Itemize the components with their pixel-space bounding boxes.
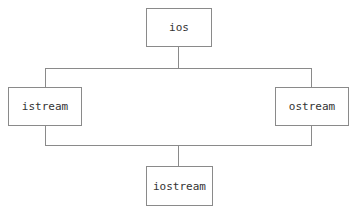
- node-istream-label: istream: [22, 100, 68, 113]
- node-iostream: iostream: [146, 166, 213, 206]
- connector-to-istream: [45, 68, 46, 88]
- connector-to-iostream: [178, 145, 179, 166]
- connector-istream-down: [45, 125, 46, 146]
- connector-top-bus: [45, 68, 312, 69]
- node-ostream: ostream: [275, 87, 349, 126]
- class-hierarchy-diagram: ios istream ostream iostream: [0, 0, 358, 219]
- connector-ostream-down: [311, 125, 312, 146]
- node-ios-label: ios: [169, 21, 189, 34]
- node-ostream-label: ostream: [289, 100, 335, 113]
- connector-ios-down: [178, 46, 179, 69]
- connector-to-ostream: [311, 68, 312, 88]
- node-ios: ios: [146, 8, 212, 47]
- node-iostream-label: iostream: [153, 180, 206, 193]
- node-istream: istream: [8, 87, 82, 126]
